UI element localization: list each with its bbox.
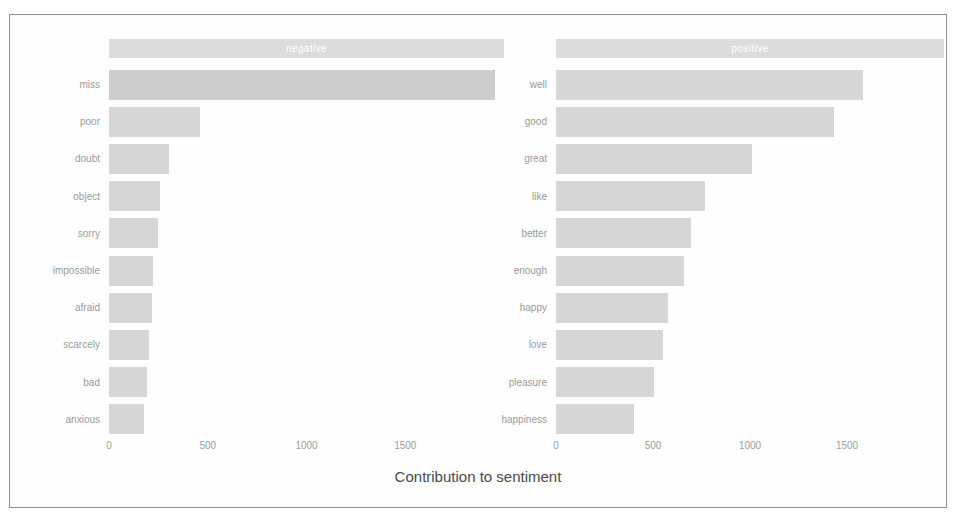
category-label: happy — [520, 289, 547, 326]
category-label: like — [532, 178, 547, 215]
bar-row: great — [556, 140, 944, 177]
bar — [556, 144, 752, 174]
plot-area-positive: wellgoodgreatlikebetterenoughhappylovepl… — [556, 66, 944, 438]
bar-row: scarcely — [109, 326, 504, 363]
x-tick-label: 1500 — [394, 440, 416, 451]
bar-row: happy — [556, 289, 944, 326]
category-label: scarcely — [63, 326, 100, 363]
category-label: miss — [79, 66, 100, 103]
bar — [109, 256, 153, 286]
figure-frame: negative misspoordoubtobjectsorryimpossi… — [9, 14, 947, 508]
category-label: object — [73, 178, 100, 215]
category-label: doubt — [75, 140, 100, 177]
bar-row: better — [556, 215, 944, 252]
bar-row: bad — [109, 364, 504, 401]
bar-row: impossible — [109, 252, 504, 289]
category-label: better — [521, 215, 547, 252]
bar-row: good — [556, 103, 944, 140]
bar — [109, 70, 495, 100]
bar — [109, 330, 149, 360]
category-label: happiness — [501, 401, 547, 438]
bar — [556, 330, 663, 360]
x-axis-negative: 050010001500 — [109, 440, 504, 456]
category-label: bad — [83, 364, 100, 401]
facet-strip-positive: positive — [556, 39, 944, 58]
bar — [109, 367, 147, 397]
bar-row: well — [556, 66, 944, 103]
bar — [109, 218, 158, 248]
x-tick-label: 1500 — [836, 440, 858, 451]
bar — [556, 367, 654, 397]
bar-row: poor — [109, 103, 504, 140]
bar-row: anxious — [109, 401, 504, 438]
bar — [109, 404, 144, 434]
x-tick-label: 1000 — [739, 440, 761, 451]
bar-row: object — [109, 178, 504, 215]
category-label: well — [530, 66, 547, 103]
bar-row: miss — [109, 66, 504, 103]
facet-panel-positive: positive wellgoodgreatlikebetterenoughha… — [510, 15, 948, 507]
bar — [556, 107, 834, 137]
category-label: anxious — [66, 401, 100, 438]
bar — [109, 144, 169, 174]
bar-row: pleasure — [556, 364, 944, 401]
category-label: enough — [514, 252, 547, 289]
bar — [556, 404, 634, 434]
bar-row: happiness — [556, 401, 944, 438]
bar-row: like — [556, 178, 944, 215]
x-tick-label: 0 — [106, 440, 112, 451]
category-label: afraid — [75, 289, 100, 326]
category-label: poor — [80, 103, 100, 140]
facet-strip-negative: negative — [109, 39, 504, 58]
x-axis-positive: 050010001500 — [556, 440, 944, 456]
bar — [109, 293, 152, 323]
bar — [556, 256, 684, 286]
x-tick-label: 0 — [553, 440, 559, 451]
category-label: pleasure — [509, 364, 547, 401]
bar-row: afraid — [109, 289, 504, 326]
bar-row: sorry — [109, 215, 504, 252]
bar — [556, 218, 691, 248]
category-label: good — [525, 103, 547, 140]
facet-panel-negative: negative misspoordoubtobjectsorryimpossi… — [10, 15, 510, 507]
bar — [109, 107, 200, 137]
category-label: love — [529, 326, 547, 363]
x-tick-label: 500 — [645, 440, 662, 451]
bar-row: doubt — [109, 140, 504, 177]
category-label: sorry — [78, 215, 100, 252]
category-label: impossible — [53, 252, 100, 289]
bar-row: enough — [556, 252, 944, 289]
bar — [556, 293, 668, 323]
plot-area-negative: misspoordoubtobjectsorryimpossibleafraid… — [109, 66, 504, 438]
category-label: great — [524, 140, 547, 177]
bar-row: love — [556, 326, 944, 363]
bar — [556, 70, 863, 100]
bar — [109, 181, 160, 211]
x-axis-title: Contribution to sentiment — [10, 468, 946, 485]
x-tick-label: 500 — [199, 440, 216, 451]
bar — [556, 181, 705, 211]
x-tick-label: 1000 — [295, 440, 317, 451]
